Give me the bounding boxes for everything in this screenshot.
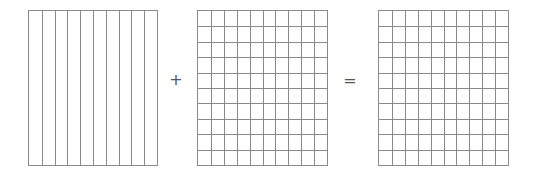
tenths-grid-lines [29, 11, 157, 165]
tenths-strip-grid [28, 10, 158, 166]
hundredths-grid-right [378, 10, 509, 166]
hundredths-left-grid-lines [198, 11, 327, 165]
equals-sign: = [340, 73, 360, 89]
hundredths-right-grid-lines [379, 11, 508, 165]
hundredths-grid-left [197, 10, 328, 166]
plus-sign: + [166, 72, 186, 88]
